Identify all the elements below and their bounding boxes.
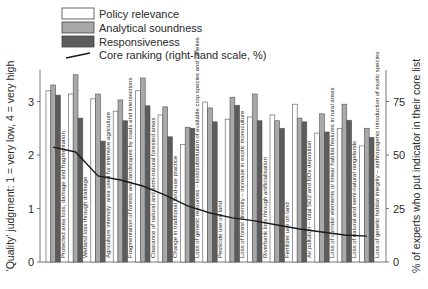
legend-swatch-core-ranking [66, 53, 90, 58]
category-labels: Protected area loss, damage and fragment… [60, 37, 380, 258]
legend-entry-core-ranking: Core ranking (right-hand scale, %) [66, 49, 267, 61]
category-label: Riverbank loss through artificialisation [262, 157, 268, 258]
legend-label-analytical-soundness: Analytical soundness [99, 22, 203, 34]
bar-analytical-soundness [73, 75, 78, 262]
legend-entry-analytical-soundness: Analytical soundness [62, 22, 203, 34]
category-label: Agriculture intensity: area used for int… [105, 111, 111, 258]
y-tick-left-label: 3 [28, 96, 34, 108]
bar-analytical-soundness [230, 97, 235, 262]
bar-policy-relevance [68, 94, 73, 262]
category-label: Air pollution – total SO2 and NOx deposi… [306, 141, 312, 258]
bars [46, 75, 374, 262]
legend-swatch-analytical-soundness [62, 22, 94, 33]
y-tick-right-label: 75 [393, 96, 405, 108]
bar-policy-relevance [91, 99, 96, 262]
y-tick-left-label: 0 [28, 256, 34, 268]
bar-policy-relevance [360, 146, 365, 262]
legend-label-responsiveness: Responsiveness [99, 36, 180, 48]
bar-analytical-soundness [364, 128, 369, 262]
category-label: Fragmentation of forests and landscapes … [127, 78, 133, 258]
legend-swatch-policy-relevance [62, 8, 94, 19]
bar-policy-relevance [315, 133, 320, 262]
legend: Policy relevance Analytical soundness Re… [62, 8, 267, 61]
category-label: Loss of natural and semi-natural rangela… [351, 141, 357, 258]
bar-analytical-soundness [51, 85, 56, 262]
y-tick-left-label: 2 [28, 149, 34, 161]
bar-analytical-soundness [96, 94, 101, 262]
category-label: Loss of forest diversity – increase in e… [239, 110, 245, 258]
category-label: Clearance of natural and semi-natural fo… [150, 118, 156, 258]
category-label: Loss of genetic resources – loss/substit… [194, 37, 200, 258]
bar-analytical-soundness [163, 107, 168, 262]
category-label: Loss of genetic habitat integrity – anth… [374, 52, 380, 258]
legend-label-core-ranking: Core ranking (right-hand scale, %) [99, 49, 267, 61]
bar-analytical-soundness [185, 127, 190, 262]
bar-policy-relevance [248, 117, 253, 262]
bar-policy-relevance [270, 115, 275, 262]
category-label: Wetland loss through drainage [82, 176, 88, 258]
bar-analytical-soundness [342, 104, 347, 262]
bar-analytical-soundness [320, 114, 325, 262]
y-ticks-right: 0255075 [386, 96, 405, 269]
y-tick-right-label: 50 [393, 149, 405, 161]
bar-policy-relevance [225, 119, 230, 262]
bar-policy-relevance [136, 91, 141, 262]
bar-analytical-soundness [297, 118, 302, 262]
bar-policy-relevance [337, 128, 342, 262]
y-axis-right-label: % of experts who put indicator in their … [410, 59, 422, 273]
y-axis-left-label: 'Quality' judgment: 1 = very low, 4 = ve… [4, 61, 16, 272]
bar-policy-relevance [46, 91, 51, 262]
bar-policy-relevance [203, 102, 208, 262]
bar-analytical-soundness [140, 78, 145, 262]
bar-policy-relevance [113, 111, 118, 262]
bar-analytical-soundness [275, 121, 280, 262]
bar-policy-relevance [158, 115, 163, 262]
y-ticks-left: 0123 [28, 96, 40, 269]
category-label: Pesticide use on land [217, 201, 223, 258]
legend-entry-responsiveness: Responsiveness [62, 36, 180, 48]
chart: Policy relevance Analytical soundness Re… [0, 0, 428, 289]
y-tick-left-label: 1 [28, 203, 34, 215]
bar-policy-relevance [292, 104, 297, 262]
legend-entry-policy-relevance: Policy relevance [62, 8, 179, 20]
category-label: Fertilizer use on land [284, 202, 290, 258]
bar-analytical-soundness [252, 94, 257, 262]
y-tick-right-label: 0 [393, 256, 399, 268]
legend-swatch-responsiveness [62, 36, 94, 47]
legend-label-policy-relevance: Policy relevance [99, 8, 179, 20]
y-tick-right-label: 25 [393, 203, 405, 215]
category-label: Change in traditional land-use practice [172, 155, 178, 258]
bar-analytical-soundness [208, 108, 213, 262]
